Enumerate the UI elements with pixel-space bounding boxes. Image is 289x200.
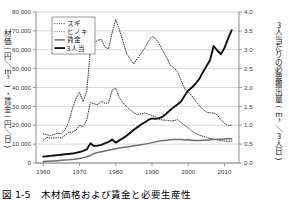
y2-tick-label: 1.0 [244,121,253,128]
figure-caption-text: 図 1-5 木材価格および賃金と必要生産性 [2,189,191,200]
y-axis-title: ) [3,145,12,148]
y-tick-label: 30,000 [12,103,31,110]
y2-tick-label: 4.0 [244,8,253,15]
y-axis-title: 日 [4,135,12,144]
y2-tick-label: 3.5 [244,27,253,34]
y-tick-label: 40,000 [12,84,31,91]
chart-canvas: 010,00020,00030,00040,00050,00060,00070,… [0,0,289,186]
y-axis-title: ( [3,115,12,118]
legend-label-2: 賃金 [67,35,81,44]
x-tick-label: 1960 [36,168,50,175]
y-axis-title: ) [3,85,12,88]
y2-tick-label: 0.0 [244,159,253,166]
legend-label-0: スギ [67,20,81,28]
chart-legend: スギヒノキ賃金3人当 [52,17,95,54]
y-tick-label: 10,000 [12,140,31,147]
x-tick-label: 1970 [73,168,87,175]
y2-tick-label: 1.5 [244,103,253,110]
y-tick-label: 0 [28,159,32,166]
x-tick-label: 2000 [181,168,195,175]
y2-tick-label: 2.5 [244,65,253,72]
y2-tick-label: 3.0 [244,46,253,53]
figure-container: 010,00020,00030,00040,00050,00060,00070,… [0,0,289,200]
y-tick-label: 60,000 [12,46,31,53]
x-tick-label: 2010 [218,168,232,175]
y2-axis-tick-labels: 0.00.51.01.52.02.53.03.54.0 [244,8,253,166]
y-axis-title: ( [3,47,12,50]
y2-axis-title: ) [274,158,283,161]
x-tick-label: 1990 [145,168,159,175]
figure-caption: 図 1-5 木材価格および賃金と必要生産性 [2,186,289,200]
y-axis-title: ³ [6,74,9,83]
y2-axis-title: 量 [275,95,283,104]
y2-tick-label: 0.5 [244,140,253,147]
y-axis-title: 価 [4,36,12,46]
y-tick-label: 80,000 [12,8,31,15]
y-axis-tick-labels: 010,00020,00030,00040,00050,00060,00070,… [12,8,31,166]
y2-axis-title: 日 [275,147,283,156]
y2-tick-label: 2.0 [244,84,253,91]
y2-axis-title: ( [274,105,283,108]
y-axis-title: 金 [4,104,12,114]
legend-label-1: ヒノキ [67,28,88,36]
y-tick-label: 20,000 [12,121,31,128]
y-tick-label: 70,000 [12,27,31,34]
x-tick-label: 1980 [109,168,123,175]
legend-label-3: 3人当 [67,44,85,53]
y-tick-label: 50,000 [12,65,31,72]
